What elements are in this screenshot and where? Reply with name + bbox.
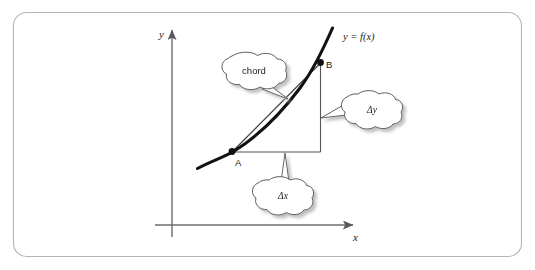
y-axis-label: y <box>158 28 164 40</box>
figure-container: y x y = f(x) A B chord <box>0 0 535 270</box>
point-a-dot <box>229 148 236 155</box>
function-label: y = f(x) <box>342 31 375 43</box>
delta-x-cloud-text: Δx <box>277 191 289 201</box>
point-a-label: A <box>235 157 242 168</box>
point-b-dot <box>317 59 324 66</box>
calculus-chord-diagram: y x y = f(x) A B chord <box>0 0 535 270</box>
chord-cloud-text: chord <box>242 65 266 76</box>
x-axis-label: x <box>352 231 358 243</box>
figure-border <box>14 13 522 257</box>
delta-y-cloud-text: Δy <box>366 105 378 115</box>
point-b-label: B <box>326 59 332 70</box>
